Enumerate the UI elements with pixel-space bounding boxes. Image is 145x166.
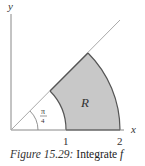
angle-arc xyxy=(30,111,38,130)
tick-label-2: 2 xyxy=(117,135,123,147)
x-axis-label: x xyxy=(130,123,136,135)
caption-text: Integrate xyxy=(76,148,120,160)
angle-label-numerator: π xyxy=(41,107,45,116)
tick-label-1: 1 xyxy=(63,135,69,147)
region-label: R xyxy=(80,95,89,110)
y-axis-label: y xyxy=(7,0,13,12)
figure-caption: Figure 15.29: Integrate f xyxy=(10,148,123,160)
figure-number: Figure 15.29: xyxy=(10,148,73,160)
angle-label-denominator: 4 xyxy=(41,117,45,125)
caption-variable: f xyxy=(120,148,123,160)
polar-region-diagram: y x 1 2 R π 4 xyxy=(0,0,145,166)
region-r xyxy=(50,53,120,130)
